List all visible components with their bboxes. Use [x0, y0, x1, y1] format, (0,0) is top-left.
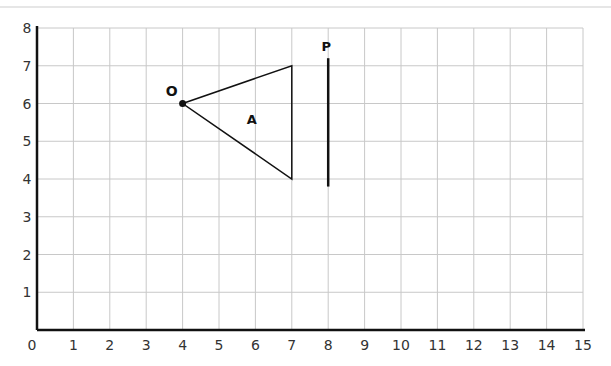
- x-tick-label: 11: [428, 337, 446, 353]
- x-tick-label: 6: [251, 337, 260, 353]
- y-tick-label: 1: [23, 284, 32, 300]
- x-tick-label: 4: [178, 337, 187, 353]
- y-tick-label: 5: [23, 133, 32, 149]
- x-tick-label: 12: [465, 337, 483, 353]
- x-tick-label: 10: [392, 337, 410, 353]
- x-tick-label: 3: [142, 337, 151, 353]
- x-tick-label: 2: [105, 337, 114, 353]
- y-tick-label: 7: [23, 58, 32, 74]
- y-tick-label: 3: [23, 209, 32, 225]
- y-tick-label: 8: [23, 20, 32, 36]
- x-tick-label: 8: [324, 337, 333, 353]
- x-tick-label: 14: [538, 337, 556, 353]
- grid-lines: [37, 28, 583, 330]
- point-o: [179, 100, 186, 107]
- y-tick-label: 2: [23, 247, 32, 263]
- y-tick-label: 4: [23, 171, 32, 187]
- x-tick-label: 1: [69, 337, 78, 353]
- triangle-a: [183, 66, 292, 179]
- x-tick-label: 9: [360, 337, 369, 353]
- y-tick-labels: 12345678: [23, 20, 32, 300]
- y-tick-label: 6: [23, 96, 32, 112]
- x-tick-label: 15: [574, 337, 592, 353]
- label-o: O: [166, 83, 178, 99]
- x-tick-label: 5: [215, 337, 224, 353]
- x-tick-label: 7: [287, 337, 296, 353]
- label-a: A: [247, 112, 257, 127]
- coordinate-grid: 0123456789101112131415 12345678 A P O: [0, 0, 611, 366]
- x-tick-label: 0: [28, 337, 37, 353]
- axes: [37, 26, 585, 330]
- x-tick-label: 13: [501, 337, 519, 353]
- x-tick-labels: 0123456789101112131415: [28, 337, 592, 353]
- label-p: P: [322, 39, 332, 54]
